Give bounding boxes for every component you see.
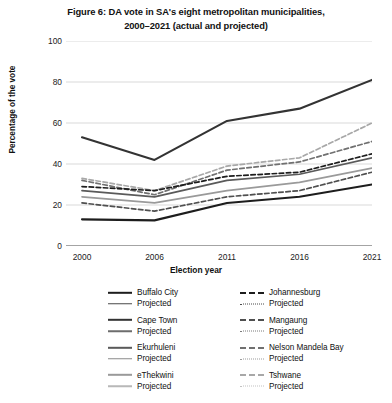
legend-item-actual[interactable]: eThekwini xyxy=(108,370,240,381)
legend-line-swatch-icon xyxy=(108,326,132,337)
legend-label: Johannesburg xyxy=(269,287,320,298)
figure-title: Figure 6: DA vote in SA's eight metropol… xyxy=(0,5,392,32)
x-tick-label: 2000 xyxy=(59,252,105,262)
legend-item-projected[interactable]: Projected xyxy=(240,381,372,392)
legend-item-projected[interactable]: Projected xyxy=(108,326,240,337)
figure-title-line-1: Figure 6: DA vote in SA's eight metropol… xyxy=(0,5,392,19)
legend-group: Cape TownProjected xyxy=(108,315,240,337)
x-tick-label: 2016 xyxy=(277,252,323,262)
legend-column-right: JohannesburgProjectedMangaungProjectedNe… xyxy=(240,287,372,397)
legend-line-swatch-icon xyxy=(240,342,264,353)
legend-group: Buffalo CityProjected xyxy=(108,287,240,309)
legend-line-swatch-icon xyxy=(240,315,264,326)
y-tick-label: 60 xyxy=(28,119,62,127)
chart-svg xyxy=(66,41,372,246)
legend-group: MangaungProjected xyxy=(240,315,372,337)
legend-item-projected[interactable]: Projected xyxy=(240,353,372,364)
legend-line-swatch-icon xyxy=(108,315,132,326)
legend-label: Cape Town xyxy=(137,315,177,326)
legend-line-swatch-icon xyxy=(240,370,264,381)
legend-item-actual[interactable]: Cape Town xyxy=(108,315,240,326)
legend-item-projected[interactable]: Projected xyxy=(108,381,240,392)
legend-line-swatch-icon xyxy=(108,342,132,353)
legend-group: EkurhuleniProjected xyxy=(108,342,240,364)
legend-item-actual[interactable]: Buffalo City xyxy=(108,287,240,298)
legend-line-swatch-icon xyxy=(108,287,132,298)
legend-line-swatch-icon xyxy=(108,298,132,309)
legend-item-actual[interactable]: Ekurhuleni xyxy=(108,342,240,353)
chart-legend: Buffalo CityProjectedCape TownProjectedE… xyxy=(108,287,380,399)
y-axis-label: Percentage of the vote xyxy=(8,35,17,185)
legend-item-actual[interactable]: Mangaung xyxy=(240,315,372,326)
legend-label: Projected xyxy=(269,353,303,364)
x-axis-label: Election year xyxy=(0,265,392,275)
legend-label: Projected xyxy=(137,326,171,337)
y-tick-label: 80 xyxy=(28,78,62,86)
y-tick-label: 100 xyxy=(28,37,62,45)
y-tick-label: 0 xyxy=(28,242,62,250)
legend-group: JohannesburgProjected xyxy=(240,287,372,309)
legend-group: eThekwiniProjected xyxy=(108,370,240,392)
legend-line-swatch-icon xyxy=(240,326,264,337)
legend-label: Projected xyxy=(137,381,171,392)
legend-label: Projected xyxy=(137,353,171,364)
plot-area xyxy=(66,41,372,246)
series-line xyxy=(82,80,372,160)
legend-line-swatch-icon xyxy=(240,353,264,364)
legend-item-projected[interactable]: Projected xyxy=(108,298,240,309)
legend-group: TshwaneProjected xyxy=(240,370,372,392)
legend-line-swatch-icon xyxy=(240,381,264,392)
legend-label: eThekwini xyxy=(137,370,173,381)
legend-label: Tshwane xyxy=(269,370,301,381)
legend-label: Ekurhuleni xyxy=(137,342,175,353)
x-tick-label: 2021 xyxy=(349,252,392,262)
legend-label: Nelson Mandela Bay xyxy=(269,342,344,353)
figure-container: Figure 6: DA vote in SA's eight metropol… xyxy=(0,0,392,403)
legend-label: Projected xyxy=(269,298,303,309)
legend-label: Mangaung xyxy=(269,315,307,326)
legend-line-swatch-icon xyxy=(108,353,132,364)
legend-group: Nelson Mandela BayProjected xyxy=(240,342,372,364)
legend-label: Projected xyxy=(269,381,303,392)
legend-item-projected[interactable]: Projected xyxy=(240,298,372,309)
figure-title-line-2: 2000–2021 (actual and projected) xyxy=(0,19,392,33)
legend-line-swatch-icon xyxy=(108,370,132,381)
legend-line-swatch-icon xyxy=(240,287,264,298)
x-tick-label: 2006 xyxy=(132,252,178,262)
legend-item-projected[interactable]: Projected xyxy=(108,353,240,364)
x-tick-label: 2011 xyxy=(204,252,250,262)
legend-item-projected[interactable]: Projected xyxy=(240,326,372,337)
legend-label: Buffalo City xyxy=(137,287,178,298)
legend-column-left: Buffalo CityProjectedCape TownProjectedE… xyxy=(108,287,240,397)
legend-line-swatch-icon xyxy=(240,298,264,309)
y-tick-label: 20 xyxy=(28,201,62,209)
y-tick-label: 40 xyxy=(28,160,62,168)
legend-item-actual[interactable]: Johannesburg xyxy=(240,287,372,298)
legend-line-swatch-icon xyxy=(108,381,132,392)
legend-label: Projected xyxy=(137,298,171,309)
legend-item-actual[interactable]: Tshwane xyxy=(240,370,372,381)
legend-item-actual[interactable]: Nelson Mandela Bay xyxy=(240,342,372,353)
legend-label: Projected xyxy=(269,326,303,337)
